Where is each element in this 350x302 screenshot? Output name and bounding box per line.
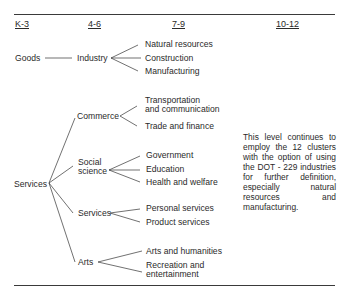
- g46-industry: Industry: [77, 54, 108, 64]
- g79-personal-services: Personal services: [146, 204, 214, 214]
- g79-recreation-line2: entertainment: [146, 270, 199, 280]
- g46-social-line2: science: [78, 167, 107, 177]
- g46-arts: Arts: [78, 258, 93, 268]
- g79-trade-finance: Trade and finance: [145, 122, 214, 132]
- g79-education: Education: [146, 165, 184, 175]
- g79-construction: Construction: [145, 54, 193, 64]
- g46-commerce: Commerce: [77, 112, 119, 122]
- g79-government: Government: [146, 151, 193, 161]
- k3-goods: Goods: [15, 54, 40, 64]
- grade-10-12-note: This level continues to employ the 12 cl…: [243, 132, 336, 212]
- g46-services: Services: [78, 209, 111, 219]
- g79-arts-humanities: Arts and humanities: [146, 247, 222, 257]
- g79-transportation-line2: and communication: [145, 105, 220, 115]
- g79-health-welfare: Health and welfare: [146, 178, 218, 188]
- g79-natural-resources: Natural resources: [145, 40, 213, 50]
- g79-manufacturing: Manufacturing: [145, 67, 199, 77]
- k3-services: Services: [14, 180, 47, 190]
- g79-product-services: Product services: [146, 218, 210, 228]
